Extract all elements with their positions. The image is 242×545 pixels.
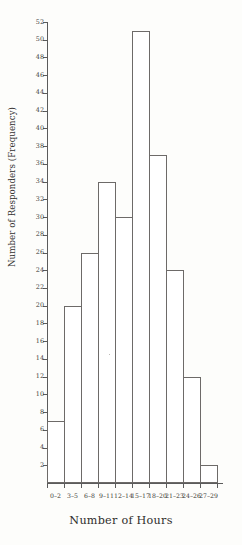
scan-speck bbox=[109, 354, 110, 355]
histogram-bar bbox=[81, 253, 99, 484]
y-axis-tick-label: 38 bbox=[36, 142, 44, 150]
x-axis-tick-mark bbox=[166, 483, 167, 488]
x-axis-tick-mark bbox=[149, 483, 150, 488]
y-axis-tick: 52 bbox=[47, 22, 48, 23]
y-axis-tick-label: 32 bbox=[36, 195, 44, 203]
y-axis-tick-label: 44 bbox=[36, 88, 44, 96]
x-axis-tick-mark bbox=[200, 483, 201, 488]
x-axis-tick-mark bbox=[98, 483, 99, 488]
y-axis-tick-label: 6 bbox=[40, 425, 44, 433]
y-axis-tick: 22 bbox=[47, 288, 48, 289]
y-axis-tick-label: 34 bbox=[36, 177, 44, 185]
y-axis-tick-label: 14 bbox=[36, 354, 44, 362]
y-axis-tick: 16 bbox=[47, 341, 48, 342]
y-axis-tick-label: 30 bbox=[36, 213, 44, 221]
histogram-bar bbox=[200, 465, 218, 483]
histogram-bar bbox=[64, 306, 82, 483]
y-axis-tick: 18 bbox=[47, 323, 48, 324]
y-axis-title: Number of Responders (Frequency) bbox=[7, 87, 21, 287]
y-axis-tick-label: 48 bbox=[36, 53, 44, 61]
y-axis-tick-label: 26 bbox=[36, 248, 44, 256]
y-axis-tick: 14 bbox=[47, 359, 48, 360]
y-axis-tick: 12 bbox=[47, 377, 48, 378]
y-axis-tick-label: 12 bbox=[36, 372, 44, 380]
y-axis-tick-label: 36 bbox=[36, 159, 44, 167]
histogram-bar bbox=[166, 270, 184, 483]
histogram-bar bbox=[47, 421, 65, 483]
histogram-bar bbox=[98, 182, 116, 483]
y-axis-tick: 36 bbox=[47, 164, 48, 165]
y-axis-tick-label: 50 bbox=[36, 35, 44, 43]
y-axis-tick-label: 42 bbox=[36, 106, 44, 114]
plot-area: 2468101214161820222426283032343638404244… bbox=[47, 22, 223, 484]
y-axis-tick: 20 bbox=[47, 306, 48, 307]
histogram-bar bbox=[132, 31, 150, 483]
x-axis-tick-mark bbox=[183, 483, 184, 488]
y-axis-tick: 42 bbox=[47, 111, 48, 112]
y-axis-tick: 48 bbox=[47, 57, 48, 58]
x-axis-title: Number of Hours bbox=[0, 514, 242, 527]
y-axis-tick-label: 40 bbox=[36, 124, 44, 132]
y-axis-tick: 10 bbox=[47, 394, 48, 395]
x-axis-tick-mark bbox=[81, 483, 82, 488]
y-axis-tick-label: 2 bbox=[40, 461, 44, 469]
y-axis-tick-label: 20 bbox=[36, 301, 44, 309]
y-axis-tick-label: 24 bbox=[36, 266, 44, 274]
x-axis-tick-mark bbox=[64, 483, 65, 488]
x-axis-tick-mark bbox=[217, 483, 218, 488]
y-axis-tick-label: 22 bbox=[36, 283, 44, 291]
y-axis-tick: 44 bbox=[47, 93, 48, 94]
x-axis-tick-mark bbox=[132, 483, 133, 488]
y-axis-tick-label: 18 bbox=[36, 319, 44, 327]
histogram-chart: Number of Responders (Frequency) 2468101… bbox=[0, 0, 242, 545]
x-axis-tick-label: 27–29 bbox=[198, 492, 219, 500]
y-axis-tick: 28 bbox=[47, 235, 48, 236]
y-axis-tick: 46 bbox=[47, 75, 48, 76]
y-axis-tick-label: 10 bbox=[36, 390, 44, 398]
y-axis-tick: 26 bbox=[47, 253, 48, 254]
y-axis-tick-label: 52 bbox=[36, 18, 44, 26]
histogram-bar bbox=[115, 217, 133, 483]
y-axis-tick: 24 bbox=[47, 270, 48, 271]
y-axis-tick: 30 bbox=[47, 217, 48, 218]
x-axis-line bbox=[47, 483, 223, 484]
histogram-bar bbox=[183, 377, 201, 483]
y-axis-tick: 38 bbox=[47, 146, 48, 147]
y-axis-tick-label: 46 bbox=[36, 71, 44, 79]
y-axis-tick: 40 bbox=[47, 128, 48, 129]
y-axis-tick: 8 bbox=[47, 412, 48, 413]
y-axis-tick: 50 bbox=[47, 40, 48, 41]
x-axis-tick-mark bbox=[47, 483, 48, 488]
x-axis-tick-mark bbox=[115, 483, 116, 488]
y-axis-tick: 34 bbox=[47, 182, 48, 183]
y-axis-tick-label: 16 bbox=[36, 337, 44, 345]
y-axis-tick: 32 bbox=[47, 199, 48, 200]
histogram-bar bbox=[149, 155, 167, 483]
y-axis-tick-label: 28 bbox=[36, 230, 44, 238]
y-axis-tick-label: 4 bbox=[40, 443, 44, 451]
y-axis-tick-label: 8 bbox=[40, 408, 44, 416]
